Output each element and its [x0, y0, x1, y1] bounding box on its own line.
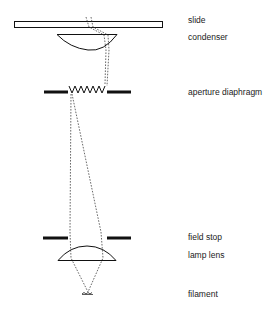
field-stop-label: field stop: [188, 232, 222, 242]
aperture-diaphragm-shape: [44, 86, 131, 94]
filament-shape: [82, 293, 93, 295]
lamp-lens-label: lamp lens: [188, 250, 224, 260]
condenser-lens-shape: [57, 35, 117, 51]
condenser-label: condenser: [188, 32, 228, 42]
aperture-diaphragm-label: aperture diaphragm: [188, 87, 262, 97]
field-stop-shape: [43, 237, 131, 240]
optical-path-diagram: [0, 0, 279, 315]
lamp-lens-shape: [58, 246, 116, 261]
lower-light-rays: [70, 94, 103, 292]
slide-label: slide: [188, 15, 205, 25]
filament-label: filament: [188, 289, 218, 299]
